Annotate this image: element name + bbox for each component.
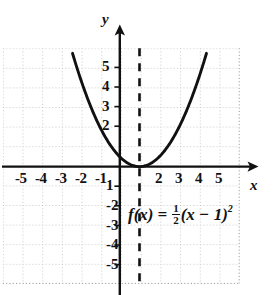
graph-figure: y x 5 4 3 2 1 -2 -3 -4 -5 -5 -4 -3 -2 -1… — [0, 0, 273, 295]
y-tick-label-neg-1: 1 — [106, 178, 114, 193]
y-tick-label-2: 2 — [102, 118, 110, 133]
equation-function-name: f(x) — [128, 205, 153, 225]
fraction-numerator: 1 — [172, 203, 180, 214]
equation-fraction-one-half: 1 2 — [172, 203, 180, 226]
y-tick-label-neg-2: -2 — [106, 198, 119, 213]
equation-binomial: (x − 1) — [181, 205, 228, 225]
y-tick-label-4: 4 — [102, 79, 110, 94]
equation-exponent: 2 — [228, 203, 233, 214]
x-tick-label-4: 4 — [195, 171, 203, 186]
x-tick-label-3: 3 — [175, 171, 183, 186]
y-tick-label-3: 3 — [102, 99, 110, 114]
equation-equals-sign: = — [157, 205, 167, 225]
y-tick-label-neg-4: -4 — [106, 237, 119, 252]
x-tick-label-neg-5: -5 — [15, 171, 27, 186]
y-tick-label-neg-3: -3 — [106, 218, 119, 233]
y-tick-label-neg-5: -5 — [106, 257, 119, 272]
x-tick-label-neg-4: -4 — [35, 171, 47, 186]
fraction-denominator: 2 — [172, 214, 180, 226]
coordinate-plane-svg — [0, 0, 273, 295]
x-tick-label-neg-1: -1 — [95, 171, 107, 186]
function-equation: f(x) = 1 2 (x − 1) 2 — [128, 203, 233, 226]
x-tick-label-neg-2: -2 — [75, 171, 87, 186]
x-tick-label-5: 5 — [215, 171, 223, 186]
y-tick-label-5: 5 — [102, 59, 110, 74]
x-axis-label: x — [250, 178, 258, 193]
x-tick-label-2: 2 — [155, 171, 163, 186]
y-axis-label: y — [102, 12, 109, 27]
x-tick-label-neg-3: -3 — [55, 171, 67, 186]
